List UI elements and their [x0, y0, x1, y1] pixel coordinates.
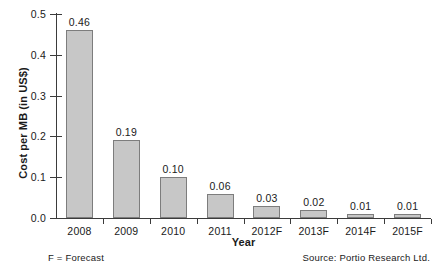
- bar[interactable]: 0.01: [347, 214, 374, 218]
- bar[interactable]: 0.06: [207, 194, 234, 218]
- bar-chart-figure: Cost per MB (in US$) 0.00.10.20.30.40.5 …: [0, 0, 436, 273]
- x-axis-title: Year: [56, 236, 431, 248]
- bar-rect: [300, 210, 327, 218]
- x-tick-mark: [384, 219, 385, 224]
- bar-rect: [160, 177, 187, 218]
- x-tick-mark: [197, 219, 198, 224]
- bar[interactable]: 0.19: [113, 140, 140, 218]
- bar-value-label: 0.03: [256, 193, 277, 204]
- bar[interactable]: 0.10: [160, 177, 187, 218]
- bar-rect: [207, 194, 234, 218]
- bar-rect: [347, 214, 374, 218]
- bar-value-label: 0.46: [69, 17, 90, 28]
- y-tick-label: 0.0: [4, 213, 46, 224]
- bar-rect: [253, 206, 280, 218]
- y-tick-mark: [50, 218, 62, 219]
- bar[interactable]: 0.01: [394, 214, 421, 218]
- bar-rect: [113, 140, 140, 218]
- source-note: Source: Portio Research Ltd.: [302, 252, 430, 263]
- bar-value-label: 0.06: [209, 181, 230, 192]
- bar-rect: [394, 214, 421, 218]
- y-tick-label: 0.1: [4, 172, 46, 183]
- bar-rect: [66, 30, 93, 218]
- x-tick-mark: [431, 219, 432, 224]
- y-tick-label: 0.2: [4, 131, 46, 142]
- bar[interactable]: 0.46: [66, 30, 93, 218]
- bar[interactable]: 0.02: [300, 210, 327, 218]
- bar-value-label: 0.10: [163, 164, 184, 175]
- bar-value-label: 0.01: [397, 201, 418, 212]
- y-tick-label: 0.5: [4, 9, 46, 20]
- x-tick-mark: [150, 219, 151, 224]
- bar-value-label: 0.01: [350, 201, 371, 212]
- x-tick-mark: [244, 219, 245, 224]
- x-tick-mark: [337, 219, 338, 224]
- y-tick-label: 0.3: [4, 91, 46, 102]
- forecast-note: F = Forecast: [48, 252, 104, 263]
- bar-value-label: 0.02: [303, 197, 324, 208]
- x-tick-mark: [290, 219, 291, 224]
- x-tick-mark: [103, 219, 104, 224]
- y-tick-label: 0.4: [4, 50, 46, 61]
- bar-value-label: 0.19: [116, 127, 137, 138]
- plot-area: 0.460.190.100.060.030.020.010.01: [56, 14, 431, 218]
- bar[interactable]: 0.03: [253, 206, 280, 218]
